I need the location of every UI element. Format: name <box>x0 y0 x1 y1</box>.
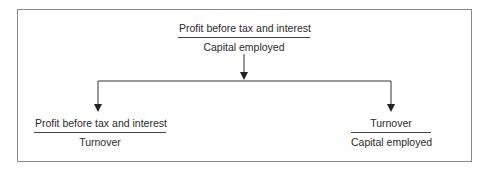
arrowhead-down-icon <box>387 104 395 112</box>
arrowhead-down-icon <box>94 104 102 112</box>
arrowhead-down-icon <box>240 72 248 80</box>
connector-arrows <box>0 0 487 173</box>
branch-connector <box>98 81 391 110</box>
